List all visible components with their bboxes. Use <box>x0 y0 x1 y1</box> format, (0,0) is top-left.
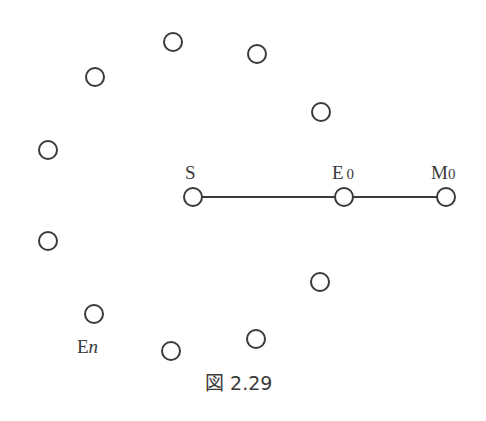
diagram-svg <box>0 0 486 421</box>
node-orbit <box>162 342 180 360</box>
label-en-main: E <box>77 336 89 357</box>
label-m0-sub: 0 <box>448 166 456 182</box>
label-e0: E0 <box>332 163 354 182</box>
label-en: En <box>77 337 98 356</box>
node-m0 <box>437 188 455 206</box>
node-orbit <box>86 68 104 86</box>
node-s <box>184 188 202 206</box>
label-m0-main: M <box>431 162 448 183</box>
label-s: S <box>185 163 196 182</box>
label-e0-sub: 0 <box>347 166 355 182</box>
figure-canvas: S E0 M0 En 図 2.29 <box>0 0 486 421</box>
node-en <box>85 305 103 323</box>
figure-caption: 図 2.29 <box>205 374 272 393</box>
label-e0-main: E <box>332 162 344 183</box>
node-orbit <box>247 330 265 348</box>
label-en-sub: n <box>89 336 99 357</box>
node-orbit <box>39 232 57 250</box>
node-orbit <box>312 103 330 121</box>
node-orbit <box>39 141 57 159</box>
node-orbit <box>248 45 266 63</box>
node-orbit <box>164 33 182 51</box>
node-e0 <box>335 188 353 206</box>
node-orbit <box>311 273 329 291</box>
label-m0: M0 <box>431 163 455 182</box>
